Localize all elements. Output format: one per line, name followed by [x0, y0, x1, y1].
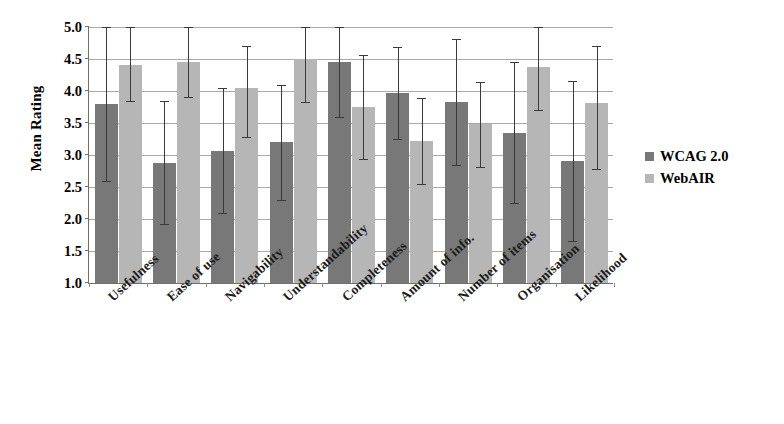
- bar-group: [89, 27, 147, 283]
- legend-label: WebAIR: [660, 170, 715, 187]
- error-bar-cap-lower: [160, 224, 169, 225]
- x-axis-tick-mark: [206, 283, 207, 287]
- error-bar-cap-lower: [510, 203, 519, 204]
- y-axis-tick-label: 4.5: [64, 51, 82, 68]
- error-bar-cap-upper: [510, 62, 519, 63]
- legend-item: WebAIR: [645, 170, 728, 187]
- error-bar: [456, 39, 457, 164]
- error-bar: [573, 81, 574, 241]
- error-bar-cap-lower: [476, 167, 485, 168]
- error-bar: [247, 46, 248, 137]
- bar-group: [206, 27, 264, 283]
- y-axis-tick-label: 1.5: [64, 243, 82, 260]
- x-axis-tick-mark: [556, 283, 557, 287]
- y-axis-tick-label: 2.0: [64, 211, 82, 228]
- error-bar-cap-lower: [184, 97, 193, 98]
- error-bar: [597, 46, 598, 169]
- error-bar-cap-lower: [277, 200, 286, 201]
- error-bar: [281, 85, 282, 200]
- error-bar-cap-lower: [452, 165, 461, 166]
- error-bar-cap-upper: [184, 27, 193, 28]
- error-bar: [514, 62, 515, 203]
- error-bar-cap-lower: [242, 137, 251, 138]
- error-bar: [398, 47, 399, 139]
- x-axis-tick-mark: [89, 283, 90, 287]
- error-bar: [305, 27, 306, 102]
- error-bar-cap-lower: [592, 169, 601, 170]
- error-bar: [363, 55, 364, 160]
- error-bar-cap-lower: [301, 102, 310, 103]
- error-bar: [188, 27, 189, 97]
- error-bar: [422, 98, 423, 184]
- error-bar-cap-upper: [301, 27, 310, 28]
- y-axis-tick-label: 4.0: [64, 83, 82, 100]
- bar-group: [264, 27, 322, 283]
- error-bar-cap-upper: [160, 101, 169, 102]
- error-bar-cap-upper: [359, 55, 368, 56]
- error-bar-cap-lower: [335, 117, 344, 118]
- legend-swatch-icon: [645, 152, 654, 161]
- y-axis-tick-label: 3.0: [64, 147, 82, 164]
- error-bar-cap-upper: [568, 81, 577, 82]
- y-axis-tick-label: 5.0: [64, 19, 82, 36]
- x-axis-tick-mark: [614, 283, 615, 287]
- legend-swatch-icon: [645, 174, 654, 183]
- error-bar: [223, 88, 224, 212]
- legend-item: WCAG 2.0: [645, 148, 728, 165]
- error-bar-cap-upper: [126, 27, 135, 28]
- error-bar-cap-lower: [534, 110, 543, 111]
- error-bar-cap-upper: [452, 39, 461, 40]
- error-bar-cap-upper: [417, 98, 426, 99]
- error-bar: [538, 27, 539, 110]
- error-bar-cap-upper: [476, 82, 485, 83]
- error-bar-cap-upper: [592, 46, 601, 47]
- y-axis-tick-label: 1.0: [64, 275, 82, 292]
- x-axis-tick-mark: [264, 283, 265, 287]
- error-bar: [480, 82, 481, 166]
- legend-label: WCAG 2.0: [660, 148, 728, 165]
- error-bar-cap-lower: [417, 184, 426, 185]
- x-axis-tick-mark: [497, 283, 498, 287]
- bar-group: [147, 27, 205, 283]
- error-bar: [130, 27, 131, 101]
- error-bar-cap-upper: [335, 27, 344, 28]
- error-bar-cap-upper: [218, 88, 227, 89]
- error-bar-cap-lower: [359, 159, 368, 160]
- error-bar-cap-lower: [126, 101, 135, 102]
- x-axis-tick-mark: [147, 283, 148, 287]
- error-bar-cap-upper: [393, 47, 402, 48]
- x-axis-tick-mark: [322, 283, 323, 287]
- error-bar-cap-lower: [218, 213, 227, 214]
- bar-group: [556, 27, 614, 283]
- error-bar-cap-lower: [393, 139, 402, 140]
- error-bar-cap-upper: [242, 46, 251, 47]
- error-bar-cap-upper: [534, 27, 543, 28]
- bar-chart: Mean Rating 5.04.54.03.53.02.52.01.51.0 …: [0, 0, 784, 424]
- error-bar-cap-lower: [102, 181, 111, 182]
- error-bar-cap-upper: [277, 85, 286, 86]
- y-axis-title: Mean Rating: [28, 49, 45, 209]
- x-axis-tick-mark: [381, 283, 382, 287]
- y-axis-tick-label: 3.5: [64, 115, 82, 132]
- x-axis-tick-mark: [439, 283, 440, 287]
- chart-legend: WCAG 2.0WebAIR: [645, 148, 728, 192]
- error-bar: [106, 27, 107, 181]
- y-axis-tick-label: 2.5: [64, 179, 82, 196]
- error-bar: [164, 101, 165, 224]
- error-bar-cap-upper: [102, 27, 111, 28]
- error-bar: [339, 27, 340, 117]
- bar-group: [381, 27, 439, 283]
